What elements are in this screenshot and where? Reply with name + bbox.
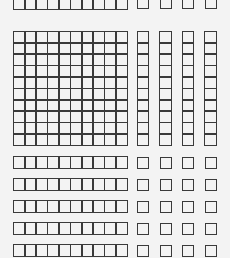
ten-rod-vertical — [160, 32, 171, 146]
unit-cube — [137, 223, 149, 235]
block-cell — [115, 133, 128, 146]
unit-cube — [137, 179, 149, 191]
unit-cube — [182, 0, 194, 9]
block-cell — [204, 133, 217, 146]
block-cell — [115, 222, 128, 235]
unit-cube — [137, 0, 149, 9]
unit-cube — [182, 179, 194, 191]
unit-cube — [205, 223, 217, 235]
ten-rod-horizontal — [14, 201, 128, 212]
ten-rod-vertical — [205, 32, 216, 146]
ten-rod-horizontal — [14, 223, 128, 234]
unit-cube — [160, 0, 172, 9]
unit-cube — [137, 245, 149, 257]
unit-cube — [160, 245, 172, 257]
block-cell — [115, 178, 128, 191]
unit-cube — [160, 201, 172, 213]
block-cell — [115, 200, 128, 213]
unit-cube — [205, 157, 217, 169]
hundred-flat — [14, 32, 128, 146]
ten-rod-horizontal — [14, 157, 128, 168]
unit-cube — [182, 201, 194, 213]
ten-rod-horizontal — [14, 245, 128, 256]
ten-rod-horizontal — [14, 0, 128, 9]
unit-cube — [160, 157, 172, 169]
unit-cube — [160, 179, 172, 191]
unit-cube — [137, 201, 149, 213]
unit-cube — [182, 245, 194, 257]
block-cell — [115, 156, 128, 169]
ten-rod-horizontal — [14, 179, 128, 190]
block-cell — [182, 133, 195, 146]
unit-cube — [205, 245, 217, 257]
unit-cube — [205, 179, 217, 191]
unit-cube — [160, 223, 172, 235]
unit-cube — [182, 223, 194, 235]
block-cell — [159, 133, 172, 146]
unit-cube — [205, 201, 217, 213]
block-cell — [115, 0, 128, 10]
block-cell — [137, 133, 150, 146]
ten-rod-vertical — [182, 32, 193, 146]
block-cell — [115, 244, 128, 257]
unit-cube — [182, 157, 194, 169]
ten-rod-vertical — [137, 32, 148, 146]
unit-cube — [205, 0, 217, 9]
unit-cube — [137, 157, 149, 169]
